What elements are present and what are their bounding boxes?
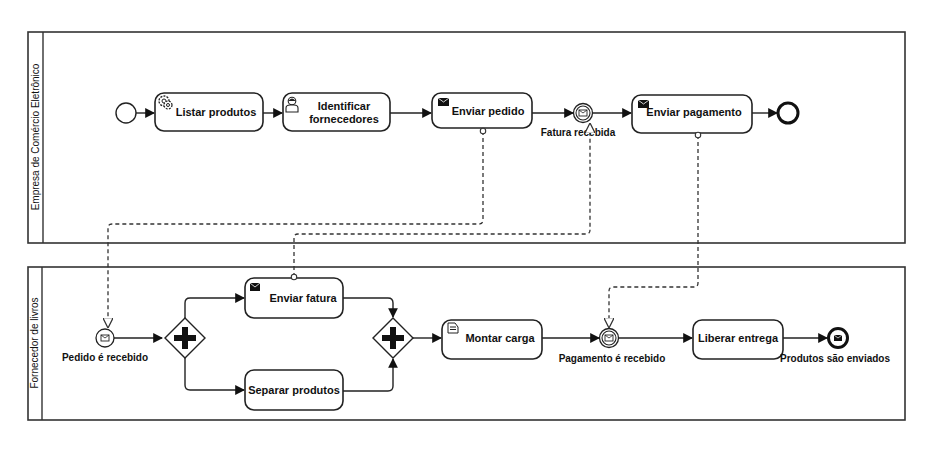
task-enviar-fatura[interactable]: Enviar fatura — [245, 278, 343, 318]
envelope-filled-icon — [438, 98, 449, 106]
task-label: Enviar fatura — [269, 292, 337, 304]
bpmn-diagram: Empresa de Comércio Eletrônico Listar pr… — [0, 0, 930, 450]
event-label: Produtos são enviados — [780, 353, 890, 364]
task-enviar-pagamento[interactable]: Enviar pagamento — [632, 95, 752, 133]
business-rule-icon — [448, 323, 458, 333]
pool-label: Empresa de Comércio Eletrônico — [30, 63, 41, 210]
event-label: Pedido é recebido — [62, 352, 148, 363]
task-identificar-fornecedores[interactable]: Identificar fornecedores — [283, 93, 390, 131]
task-label-line2: fornecedores — [309, 113, 379, 125]
event-produtos-enviados[interactable]: Produtos são enviados — [780, 329, 890, 365]
task-montar-carga[interactable]: Montar carga — [442, 320, 542, 359]
envelope-filled-icon — [250, 283, 260, 291]
pool-frame — [28, 32, 905, 243]
envelope-icon — [605, 335, 613, 341]
envelope-icon — [579, 110, 587, 116]
task-label: Liberar entrega — [698, 332, 779, 344]
envelope-filled-icon — [834, 335, 842, 341]
parallel-gateway-split[interactable] — [165, 318, 205, 358]
task-separar-produtos[interactable]: Separar produtos — [245, 370, 343, 410]
task-label: Enviar pedido — [452, 105, 525, 117]
event-label: Fatura recebida — [541, 127, 616, 138]
parallel-gateway-join[interactable] — [373, 318, 413, 358]
task-label: Separar produtos — [248, 384, 340, 396]
event-pedido-recebido[interactable]: Pedido é recebido — [62, 329, 148, 363]
start-event[interactable] — [116, 103, 136, 123]
task-listar-produtos[interactable]: Listar produtos — [155, 93, 263, 131]
envelope-icon — [101, 335, 109, 341]
event-pagamento-recebido[interactable]: Pagamento é recebido — [559, 329, 666, 365]
task-label: Enviar pagamento — [646, 106, 742, 118]
event-label: Pagamento é recebido — [559, 353, 666, 364]
task-label-line1: Identificar — [318, 100, 371, 112]
task-label: Listar produtos — [176, 106, 257, 118]
task-liberar-entrega[interactable]: Liberar entrega — [693, 320, 783, 359]
end-event[interactable] — [778, 103, 798, 123]
event-fatura-recebida[interactable]: Fatura recebida — [541, 104, 616, 139]
task-label: Montar carga — [465, 332, 535, 344]
pool-ecommerce: Empresa de Comércio Eletrônico — [28, 32, 905, 243]
message-flow-pagamento[interactable] — [609, 135, 698, 327]
task-enviar-pedido[interactable]: Enviar pedido — [432, 93, 532, 128]
pool-label: Fornecedor de livros — [29, 297, 40, 388]
message-flow-fatura[interactable] — [294, 124, 590, 277]
message-flows — [108, 124, 698, 327]
